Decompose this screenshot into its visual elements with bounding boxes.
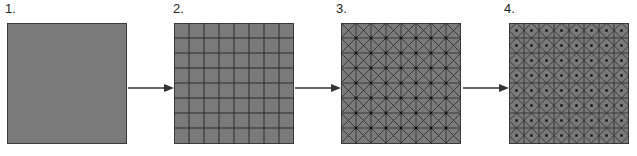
arrow-1-to-2 bbox=[128, 79, 174, 97]
step-4-label: 4. bbox=[504, 1, 515, 16]
step-3-diagonal-grid-square bbox=[341, 23, 461, 144]
step-2-label: 2. bbox=[173, 1, 184, 16]
arrow-3-to-4 bbox=[463, 79, 509, 97]
step-1-label: 1. bbox=[5, 1, 16, 16]
step-3-label: 3. bbox=[336, 1, 347, 16]
step-1-square bbox=[7, 23, 127, 144]
arrow-2-to-3 bbox=[295, 79, 341, 97]
step-4-diamond-grid-square bbox=[509, 23, 629, 144]
step-2-grid-square bbox=[174, 23, 294, 144]
